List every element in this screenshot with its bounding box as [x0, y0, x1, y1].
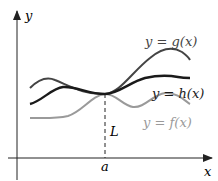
a-label: a	[101, 159, 109, 174]
h-label: y = h(x)	[151, 86, 204, 101]
plot-canvas: y x a L y = g(x) y = h(x) y = f(x)	[0, 0, 218, 181]
g-label: y = g(x)	[144, 34, 197, 49]
f-label: y = f(x)	[142, 115, 192, 130]
squeeze-theorem-figure: y x a L y = g(x) y = h(x) y = f(x)	[0, 0, 218, 181]
x-axis-label: x	[204, 164, 212, 179]
y-axis-label: y	[24, 8, 33, 23]
L-label: L	[109, 124, 119, 139]
